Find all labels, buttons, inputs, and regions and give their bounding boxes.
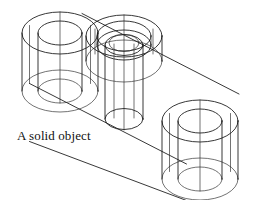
isometric-wireframe-drawing [0, 0, 259, 200]
right-end-boss [162, 100, 238, 200]
solid-object-figure: A solid object [0, 0, 259, 200]
figure-caption: A solid object [17, 128, 91, 143]
left-end-boss [22, 12, 98, 112]
middle-counterbored-boss [86, 15, 162, 130]
